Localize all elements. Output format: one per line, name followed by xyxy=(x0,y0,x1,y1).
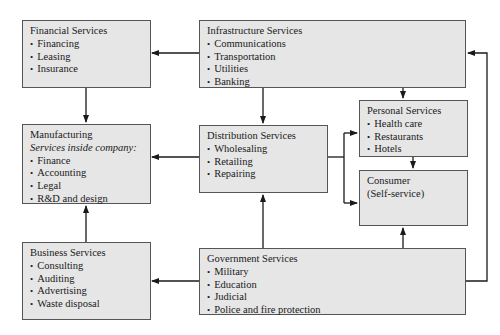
item-list: Wholesaling Retailing Repairing xyxy=(207,143,327,181)
arrow-government-to-infrastructure xyxy=(466,53,487,281)
box-subtitle: (Self-service) xyxy=(367,188,467,201)
list-item: Military xyxy=(207,266,465,279)
list-item: Transportation xyxy=(207,51,465,64)
box-title: Distribution Services xyxy=(207,130,327,143)
list-item: Banking xyxy=(207,76,465,89)
list-item: Consulting xyxy=(30,260,150,273)
item-list: Military Education Judicial Police and f… xyxy=(207,266,465,317)
list-item: Accounting xyxy=(30,167,150,180)
box-title: Personal Services xyxy=(367,105,467,118)
list-item: Financing xyxy=(30,38,150,51)
government-services-box: Government Services Military Education J… xyxy=(199,248,466,315)
item-list: Finance Accounting Legal R&D and design xyxy=(30,155,150,206)
list-item: Advertising xyxy=(30,285,150,298)
list-item: Utilities xyxy=(207,63,465,76)
list-item: Insurance xyxy=(30,63,150,76)
box-title: Consumer xyxy=(367,175,467,188)
distribution-services-box: Distribution Services Wholesaling Retail… xyxy=(199,125,328,193)
item-list: Financing Leasing Insurance xyxy=(30,38,150,76)
list-item: Police and fire protection xyxy=(207,304,465,317)
box-title: Infrastructure Services xyxy=(207,25,465,38)
item-list: Consulting Auditing Advertising Waste di… xyxy=(30,260,150,311)
box-title: Financial Services xyxy=(30,25,150,38)
manufacturing-box: Manufacturing Services inside company: F… xyxy=(22,124,151,204)
list-item: Wholesaling xyxy=(207,143,327,156)
list-item: Judicial xyxy=(207,291,465,304)
list-item: Education xyxy=(207,279,465,292)
box-subtitle: Services inside company: xyxy=(30,142,150,155)
list-item: Finance xyxy=(30,155,150,168)
box-title: Government Services xyxy=(207,253,465,266)
list-item: Repairing xyxy=(207,168,327,181)
box-title: Business Services xyxy=(30,247,150,260)
item-list: Communications Transportation Utilities … xyxy=(207,38,465,89)
list-item: Retailing xyxy=(207,156,327,169)
infrastructure-services-box: Infrastructure Services Communications T… xyxy=(199,20,466,88)
list-item: R&D and design xyxy=(30,193,150,206)
business-services-box: Business Services Consulting Auditing Ad… xyxy=(22,242,151,320)
financial-services-box: Financial Services Financing Leasing Ins… xyxy=(22,20,151,88)
list-item: Health care xyxy=(367,118,467,131)
list-item: Restaurants xyxy=(367,131,467,144)
list-item: Auditing xyxy=(30,273,150,286)
list-item: Leasing xyxy=(30,51,150,64)
consumer-box: Consumer (Self-service) xyxy=(359,170,468,226)
list-item: Communications xyxy=(207,38,465,51)
list-item: Hotels xyxy=(367,143,467,156)
box-title: Manufacturing xyxy=(30,129,150,142)
list-item: Legal xyxy=(30,180,150,193)
personal-services-box: Personal Services Health care Restaurant… xyxy=(359,100,468,157)
item-list: Health care Restaurants Hotels xyxy=(367,118,467,156)
list-item: Waste disposal xyxy=(30,298,150,311)
